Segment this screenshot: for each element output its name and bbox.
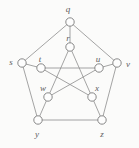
graph-edge-v-u — [103, 64, 113, 67]
graph-node-s — [18, 59, 26, 67]
graph-canvas — [0, 0, 139, 148]
graph-node-u — [95, 64, 103, 72]
graph-node-q — [66, 18, 74, 26]
graph-node-w — [44, 93, 52, 101]
graph-node-label-u: u — [96, 55, 101, 64]
graph-edge-z-x — [94, 101, 101, 116]
graph-node-label-q: q — [66, 5, 71, 14]
graph-edge-y-w — [40, 101, 47, 116]
graph-node-label-y: y — [35, 130, 39, 139]
graph-node-label-w: w — [40, 84, 46, 93]
graph-node-v — [113, 59, 121, 67]
graph-edge-v-z — [103, 67, 116, 116]
graph-node-y — [34, 116, 42, 124]
graph-edge-y-s — [23, 67, 37, 116]
graph-node-label-r: r — [66, 34, 70, 43]
graph-node-label-z: z — [100, 130, 104, 139]
graph-node-z — [98, 116, 106, 124]
graph-node-label-s: s — [9, 58, 13, 67]
graph-edge-s-q — [25, 25, 67, 61]
graph-edge-s-t — [26, 64, 37, 67]
graph-node-label-v: v — [126, 60, 130, 69]
graph-node-r — [66, 43, 74, 51]
graph-node-t — [37, 64, 45, 72]
graph-node-label-x: x — [95, 84, 99, 93]
graph-edge-q-v — [73, 25, 114, 60]
graph-figure: qvzysruxwt — [0, 0, 139, 148]
graph-node-x — [88, 93, 96, 101]
graph-node-label-t: t — [39, 55, 42, 64]
